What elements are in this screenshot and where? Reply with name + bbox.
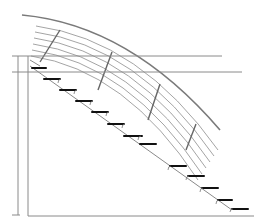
stringer-inner	[30, 60, 40, 66]
stair-drawing	[0, 0, 264, 224]
tread-group	[32, 68, 248, 209]
brace	[98, 52, 112, 90]
rail-group	[31, 26, 218, 180]
brace	[186, 124, 196, 150]
